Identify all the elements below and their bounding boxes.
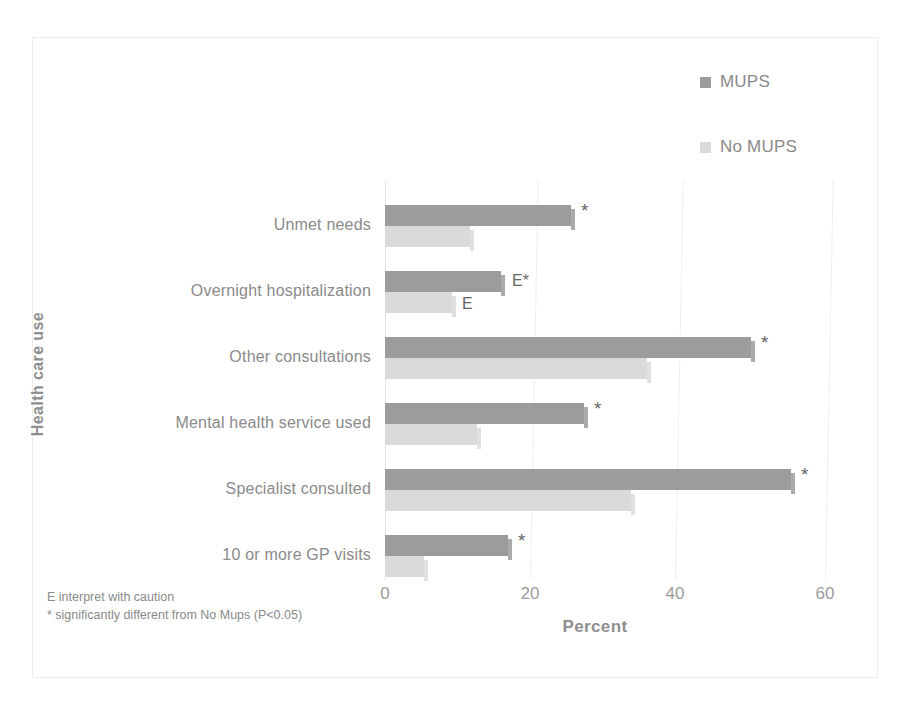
footnote-e: E interpret with caution <box>47 588 302 606</box>
category-label-specialist-consulted: Specialist consulted <box>41 480 371 498</box>
annotation-mental-health-service-used-mups: * <box>594 402 601 416</box>
legend-item-mups: MUPS <box>700 72 870 92</box>
annotation-specialist-consulted-mups: * <box>801 468 808 482</box>
category-label-overnight-hospitalization: Overnight hospitalization <box>41 282 371 300</box>
chart-page: MUPS No MUPS Health care use 0 20 40 60 … <box>0 0 913 714</box>
bar-no-mups-overnight-hospitalization <box>385 292 452 313</box>
gridline-40 <box>675 180 684 580</box>
category-label-other-consultations: Other consultations <box>41 348 371 366</box>
legend-item-no-mups: No MUPS <box>700 137 870 157</box>
bar-mups-overnight-hospitalization <box>385 271 501 292</box>
plot-area: 0 20 40 60 Unmet needs * Overnight hospi… <box>385 180 845 580</box>
bar-no-mups-10-or-more-gp-visits <box>385 556 424 577</box>
annotation-other-consultations-mups: * <box>761 336 768 350</box>
bar-mups-10-or-more-gp-visits <box>385 535 508 556</box>
category-label-mental-health-service-used: Mental health service used <box>41 414 371 432</box>
gridline-20 <box>530 180 539 580</box>
bar-no-mups-specialist-consulted <box>385 490 631 511</box>
category-label-10-or-more-gp-visits: 10 or more GP visits <box>41 546 371 564</box>
y-axis-title: Health care use <box>29 284 47 464</box>
footnote-asterisk: * significantly different from No Mups (… <box>47 606 302 624</box>
bar-no-mups-mental-health-service-used <box>385 424 477 445</box>
legend-swatch-no-mups <box>700 142 711 153</box>
x-tick-20: 20 <box>500 584 560 604</box>
annotation-10-or-more-gp-visits-mups: * <box>518 534 525 548</box>
category-label-unmet-needs: Unmet needs <box>41 216 371 234</box>
legend-swatch-mups <box>700 77 711 88</box>
legend-label-mups: MUPS <box>720 72 770 92</box>
x-tick-40: 40 <box>645 584 705 604</box>
legend-label-no-mups: No MUPS <box>720 137 797 157</box>
bar-no-mups-other-consultations <box>385 358 647 379</box>
x-tick-0: 0 <box>355 584 415 604</box>
bar-mups-other-consultations <box>385 337 751 358</box>
x-tick-60: 60 <box>795 584 855 604</box>
annotation-overnight-hospitalization-mups: E* <box>512 272 529 290</box>
gridline-60 <box>825 180 834 580</box>
bar-mups-specialist-consulted <box>385 469 791 490</box>
annotation-unmet-needs-mups: * <box>581 204 588 218</box>
bar-mups-mental-health-service-used <box>385 403 584 424</box>
annotation-overnight-hospitalization-no-mups: E <box>462 295 473 313</box>
chart-footnotes: E interpret with caution * significantly… <box>47 588 302 624</box>
x-axis-title: Percent <box>500 617 690 637</box>
bar-mups-unmet-needs <box>385 205 571 226</box>
bar-no-mups-unmet-needs <box>385 226 470 247</box>
